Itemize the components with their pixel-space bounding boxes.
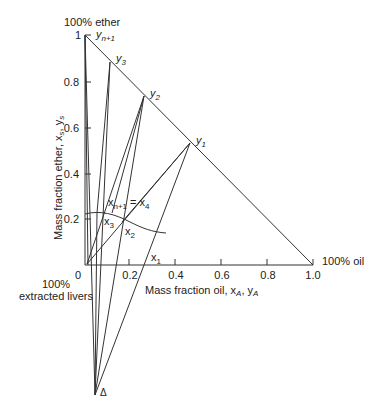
tie-lines [85,35,190,265]
label-extracted-livers: extracted livers [19,290,93,302]
label-100-oil: 100% oil [322,255,364,267]
saturation-line [85,35,313,265]
label-y3: y3 [115,52,127,67]
x-tick-0.4: 0.4 [168,269,183,281]
label-100-origin: 100% [42,278,70,290]
label-y1: y1 [195,134,206,149]
x-tick-0.2: 0.2 [122,269,137,281]
label-100-ether: 100% ether [64,16,121,28]
y-tick-0.2: 0.2 [64,213,79,225]
y-axis-title: Mass fraction ether, xs, ys [52,116,66,240]
operating-lines [85,35,190,395]
label-yn1: yn+1 [95,28,115,43]
label-x2: x2 [125,225,136,240]
x-tick-1.0: 1.0 [305,269,320,281]
y-tick-0.8: 0.8 [64,76,79,88]
x-tick-0.8: 0.8 [260,269,275,281]
label-x3: x3 [104,215,115,230]
y-tick-0.4: 0.4 [64,168,79,180]
label-xn1-eq-x4: xn+1=x4 [108,196,150,211]
label-delta: Δ [100,387,107,398]
label-x1: x1 [151,251,162,266]
y-tick-1: 1 [75,29,81,41]
x-axis-title: Mass fraction oil, xA, yA [145,284,258,298]
x-tick-0.6: 0.6 [214,269,229,281]
leaching-diagram: 0.2 0.4 0.6 0.8 1 0 0.2 0.4 0.6 0.8 1.0 … [0,0,383,413]
label-y2: y2 [149,87,161,102]
x-tick-0: 0 [75,269,81,281]
